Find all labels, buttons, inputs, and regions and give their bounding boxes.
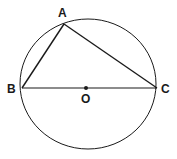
label-o: O xyxy=(81,92,90,106)
geometry-diagram: A B C O xyxy=(0,0,177,159)
label-a: A xyxy=(58,6,67,20)
segment-ac xyxy=(64,24,157,88)
center-point-o xyxy=(84,86,88,90)
label-b: B xyxy=(7,82,16,96)
circumcircle xyxy=(20,19,156,149)
label-c: C xyxy=(161,82,170,96)
segment-ab xyxy=(22,24,64,88)
